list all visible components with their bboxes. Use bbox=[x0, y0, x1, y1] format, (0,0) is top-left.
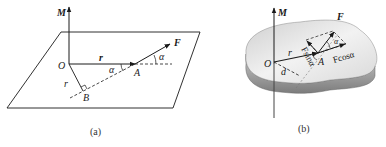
force-vector bbox=[135, 44, 170, 64]
plane bbox=[7, 32, 200, 108]
label-alpha-2: α bbox=[159, 51, 165, 62]
label-M: M bbox=[56, 7, 67, 18]
figure-b: M O r F A d α Fsinα Fcosα (b) bbox=[246, 7, 377, 135]
label-M: M bbox=[277, 7, 288, 18]
angle-arc-2 bbox=[154, 55, 156, 64]
caption-b: (b) bbox=[298, 123, 310, 135]
caption-a: (a) bbox=[90, 126, 101, 138]
label-F: F bbox=[336, 11, 344, 22]
figure-a: M O r r F A B α α (a) bbox=[7, 7, 200, 138]
perpendicular-arm bbox=[69, 64, 83, 91]
angle-arc-1 bbox=[121, 64, 123, 71]
label-r-perp: r bbox=[64, 78, 68, 89]
label-A: A bbox=[133, 67, 141, 78]
label-r: r bbox=[99, 52, 103, 63]
label-A: A bbox=[317, 56, 325, 67]
label-F: F bbox=[173, 37, 181, 48]
label-r: r bbox=[288, 47, 292, 58]
line-of-action bbox=[70, 64, 135, 98]
moment-diagram: M O r r F A B α α (a) M bbox=[0, 0, 386, 147]
label-alpha-1: α bbox=[109, 64, 115, 75]
label-O: O bbox=[264, 58, 271, 69]
label-B: B bbox=[83, 92, 89, 103]
label-O: O bbox=[58, 60, 65, 71]
